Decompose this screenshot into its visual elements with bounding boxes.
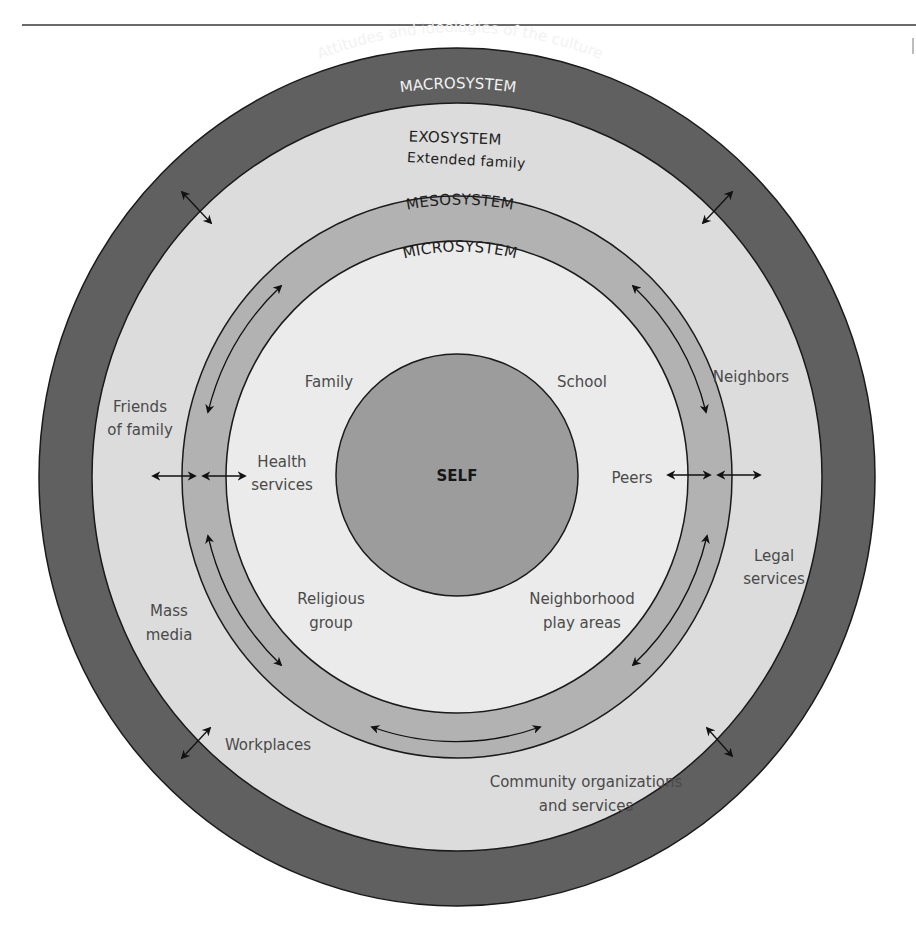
label-friends-of-family-line1: Friends bbox=[113, 398, 167, 416]
exosystem-title: EXOSYSTEM bbox=[408, 127, 502, 148]
label-peers: Peers bbox=[612, 469, 653, 487]
label-religious-group-line2: group bbox=[309, 614, 353, 632]
label-mass-media-line2: media bbox=[146, 626, 193, 644]
label-family: Family bbox=[305, 373, 353, 391]
label-legal-services-line2: services bbox=[743, 570, 805, 588]
label-legal-services-line1: Legal bbox=[754, 547, 794, 565]
label-religious-group-line1: Religious bbox=[297, 590, 365, 608]
label-community-line1: Community organizations bbox=[490, 773, 683, 791]
label-neighborhood-play-areas-line2: play areas bbox=[543, 614, 621, 632]
label-friends-of-family-line2: of family bbox=[107, 421, 173, 439]
self-label: SELF bbox=[437, 467, 478, 485]
label-health-services-line1: Health bbox=[257, 453, 306, 471]
label-health-services-line2: services bbox=[251, 476, 313, 494]
label-neighbors: Neighbors bbox=[713, 368, 790, 386]
label-mass-media-line1: Mass bbox=[150, 602, 188, 620]
label-school: School bbox=[557, 373, 607, 391]
label-workplaces: Workplaces bbox=[225, 736, 311, 754]
label-community-line2: and services bbox=[539, 797, 634, 815]
label-neighborhood-play-areas-line1: Neighborhood bbox=[529, 590, 635, 608]
ecological-systems-diagram: MACROSYSTEM Attitudes and ideologies of … bbox=[0, 0, 916, 930]
